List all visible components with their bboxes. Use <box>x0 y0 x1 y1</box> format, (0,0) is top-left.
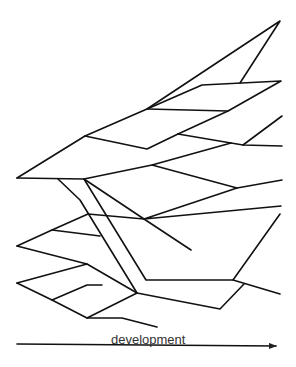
branching-diagram <box>0 0 296 367</box>
branch-line <box>243 116 282 145</box>
branch-line <box>52 230 100 236</box>
branch-line <box>144 188 281 219</box>
branch-line <box>84 179 280 280</box>
branch-line <box>147 81 281 134</box>
branch-line <box>87 318 157 327</box>
branch-line <box>17 283 137 318</box>
branch-line <box>178 134 282 146</box>
axis-label: development <box>111 333 185 347</box>
branch-line <box>17 264 87 283</box>
branch-line <box>17 143 231 179</box>
branch-line <box>17 214 144 246</box>
branch-line <box>52 285 102 300</box>
branch-line <box>17 21 280 178</box>
branch-line <box>147 109 228 111</box>
branch-lines <box>17 21 282 327</box>
branch-line <box>152 165 282 188</box>
branch-line <box>85 134 178 149</box>
